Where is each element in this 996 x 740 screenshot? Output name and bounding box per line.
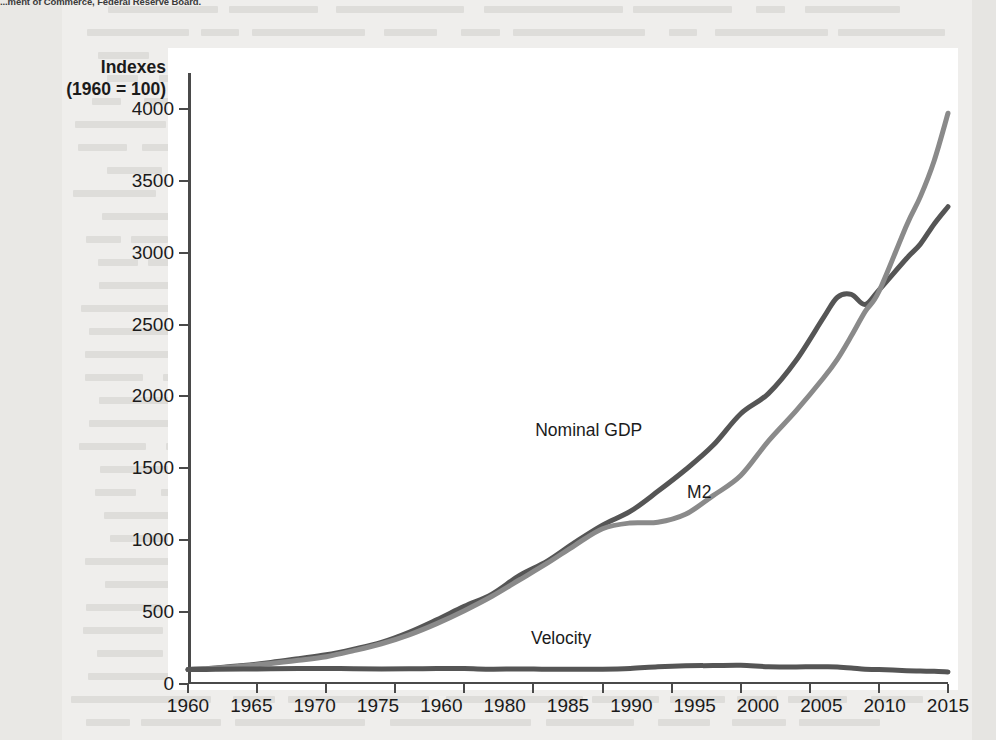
x-tick [671,684,673,693]
plot-area: 05001000150020002500300035004000 1960196… [188,73,948,684]
y-tick [179,467,188,469]
m2-line [188,113,948,669]
y-axis-caption-line2: (1960 = 100) [20,78,166,100]
x-tick-label: 2015 [927,695,969,717]
y-tick-label: 1500 [132,457,174,479]
x-tick [809,684,811,693]
y-tick [179,180,188,182]
x-tick-label: 2005 [800,695,842,717]
x-tick [256,684,258,693]
x-tick-label: 1960 [167,695,209,717]
y-tick [179,324,188,326]
x-tick-label: 1985 [547,695,589,717]
x-tick-label: 1965 [230,695,272,717]
y-tick [179,611,188,613]
y-tick-label: 4000 [132,98,174,120]
y-tick-label: 2500 [132,314,174,336]
figure-container: Indexes (1960 = 100) 0500100015002000250… [20,18,970,724]
nominal-gdp-label: Nominal GDP [535,419,642,440]
y-tick [179,395,188,397]
x-tick-label: 1980 [484,695,526,717]
m2-label: M2 [687,482,711,503]
x-tick-label: 1975 [357,695,399,717]
x-tick [325,684,327,693]
y-tick [179,539,188,541]
x-tick [878,684,880,693]
x-tick-label: 1960 [420,695,462,717]
x-tick [187,684,189,693]
x-tick [947,684,949,693]
y-tick-label: 1000 [132,529,174,551]
page-right-margin [972,0,996,740]
y-axis-caption-line1: Indexes [20,56,166,78]
line-chart: 05001000150020002500300035004000 1960196… [168,53,968,713]
x-tick [532,684,534,693]
y-tick-label: 500 [142,601,174,623]
y-tick [179,108,188,110]
velocity-label: Velocity [531,627,591,648]
y-tick-label: 0 [163,673,174,695]
y-tick-label: 2000 [132,385,174,407]
velocity-line [188,665,948,672]
x-tick-label: 1990 [610,695,652,717]
x-tick [740,684,742,693]
x-tick [463,684,465,693]
x-tick [602,684,604,693]
x-tick-label: 1970 [294,695,336,717]
y-axis-caption: Indexes (1960 = 100) [20,56,166,100]
y-tick-label: 3000 [132,242,174,264]
x-tick-label: 2000 [737,695,779,717]
x-tick [394,684,396,693]
x-tick-label: 1995 [674,695,716,717]
y-tick-label: 3500 [132,170,174,192]
x-tick-label: 2010 [864,695,906,717]
series-lines [188,73,948,684]
source-note: ...ment of Commerce, Federal Reserve Boa… [0,0,300,8]
y-tick [179,252,188,254]
